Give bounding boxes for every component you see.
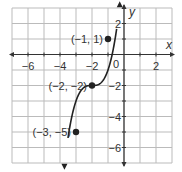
data-point-label: (−3, −5) <box>32 126 71 138</box>
data-point <box>105 36 111 42</box>
x-tick-label: −4 <box>54 60 67 72</box>
data-point-label: (−2, −2) <box>48 80 87 92</box>
x-tick-label: 2 <box>153 60 159 72</box>
y-tick-label: −6 <box>108 142 121 154</box>
y-axis-down-arrow-icon <box>122 162 127 167</box>
curve-up-arrow-icon <box>117 1 123 7</box>
x-axis-label: x <box>165 38 173 52</box>
x-tick-label: −6 <box>22 60 35 72</box>
data-point-label: (−1, 1) <box>71 33 103 45</box>
curve-down-arrow-icon <box>61 164 67 170</box>
y-tick-label: −4 <box>108 111 121 123</box>
origin-label: 0 <box>113 58 119 70</box>
y-tick-label: 2 <box>115 18 121 30</box>
data-point <box>89 82 95 88</box>
y-tick-label: −2 <box>108 80 121 92</box>
x-tick-label: −2 <box>86 60 99 72</box>
data-point <box>73 129 79 135</box>
y-axis-label: y <box>128 5 136 19</box>
coordinate-plane: −6−4−222−2−4−60xy(−1, 1)(−2, −2)(−3, −5) <box>0 0 182 172</box>
